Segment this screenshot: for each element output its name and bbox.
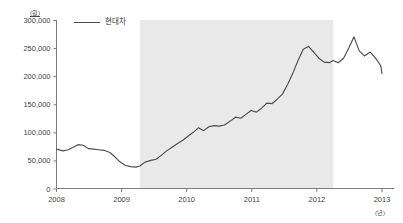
legend-label-hyundai: 현대차 xyxy=(105,18,126,26)
recession-shading-band xyxy=(140,20,333,189)
y-tick-label: 300,000 xyxy=(23,16,50,25)
y-tick-label: 150,000 xyxy=(23,100,50,109)
x-tick-label: 2008 xyxy=(48,195,65,204)
shaded-period-rect xyxy=(140,20,333,189)
legend-line-swatch xyxy=(74,22,100,23)
y-tick-label: 0 xyxy=(46,185,50,194)
line-chart-plot: 050,000100,000150,000200,000250,000300,0… xyxy=(0,0,403,223)
x-axis-ticks: 200820092010201120122013 xyxy=(48,189,390,204)
x-tick-label: 2010 xyxy=(178,195,195,204)
y-tick-label: 100,000 xyxy=(23,128,50,137)
y-tick-label: 250,000 xyxy=(23,44,50,53)
x-tick-label: 2012 xyxy=(309,195,326,204)
chart-container: (원) (년) 050,000100,000150,000200,000250,… xyxy=(0,0,403,223)
y-axis-ticks: 050,000100,000150,000200,000250,000300,0… xyxy=(23,16,56,194)
chart-legend: 현대차 xyxy=(74,16,126,28)
x-tick-label: 2011 xyxy=(244,195,260,204)
x-tick-label: 2013 xyxy=(374,195,391,204)
y-tick-label: 50,000 xyxy=(28,156,51,165)
x-tick-label: 2009 xyxy=(113,195,130,204)
y-tick-label: 200,000 xyxy=(23,72,50,81)
